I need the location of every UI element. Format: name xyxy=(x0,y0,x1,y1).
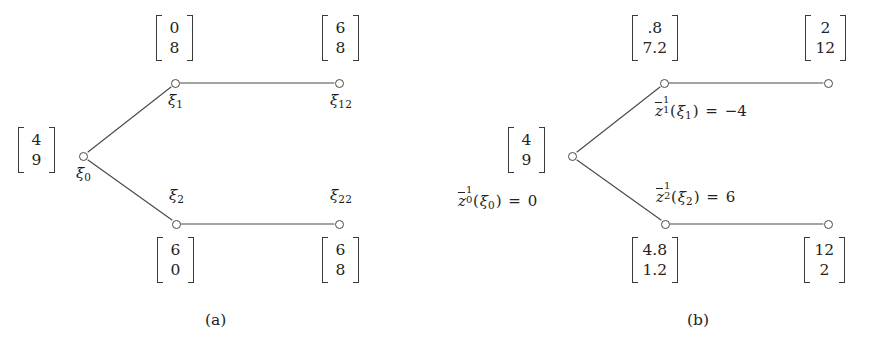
zbar-1-eq: = xyxy=(704,102,719,120)
vector-xi2: 6 0 xyxy=(157,237,194,283)
vector-b-xi2-bottom: 1.2 xyxy=(643,260,668,280)
vector-b-xi0-top: 4 xyxy=(522,131,532,151)
zbar-2-arg-sub: 2 xyxy=(686,195,693,207)
vector-b-xi22-rows: 12 2 xyxy=(813,237,837,283)
vector-b-xi1-bottom: 7.2 xyxy=(643,38,668,58)
vector-xi1-bottom: 8 xyxy=(170,38,180,58)
node-xi1[interactable] xyxy=(171,79,180,88)
edge-b-xi0-xi2 xyxy=(577,160,661,220)
vector-xi0-top: 4 xyxy=(32,131,42,151)
vector-xi0: 4 9 xyxy=(18,127,55,173)
zbar-0-sub: 0 xyxy=(466,195,472,205)
node-label-xi12-sub: 12 xyxy=(338,98,352,110)
node-b-xi0[interactable] xyxy=(568,152,577,161)
bracket-right-icon xyxy=(672,237,678,283)
node-b-xi12[interactable] xyxy=(824,79,833,88)
node-label-xi1: ξ1 xyxy=(168,93,183,110)
bracket-left-icon xyxy=(156,15,162,61)
value-label-zbar-1: z11(ξ1) = −4 xyxy=(655,101,748,121)
vector-b-xi22: 12 2 xyxy=(804,237,845,283)
node-b-xi22[interactable] xyxy=(824,220,833,229)
overbar-icon xyxy=(458,192,465,193)
vector-b-xi2-rows: 4.8 1.2 xyxy=(641,237,670,283)
overbar-icon xyxy=(656,188,663,189)
overbar-icon xyxy=(655,102,662,103)
bracket-right-icon xyxy=(539,127,545,173)
vector-xi12: 6 8 xyxy=(322,15,359,61)
node-label-xi22-sub: 22 xyxy=(338,193,352,205)
bracket-left-icon xyxy=(804,237,810,283)
vector-b-xi0: 4 9 xyxy=(508,127,545,173)
bracket-right-icon xyxy=(353,237,359,283)
caption-panel-b: (b) xyxy=(687,313,709,329)
edge-b-xi0-xi1 xyxy=(577,87,660,152)
node-label-xi0: ξ0 xyxy=(76,166,91,183)
paren-open: ( xyxy=(472,192,480,210)
paren-close: ) xyxy=(692,102,700,120)
vector-b-xi12-bottom: 12 xyxy=(816,38,836,58)
vector-b-xi12-rows: 2 12 xyxy=(814,15,838,61)
vector-b-xi0-bottom: 9 xyxy=(522,150,532,170)
zbar-1-indices: 11 xyxy=(663,101,669,116)
figure-canvas: ξ0 ξ1 ξ12 ξ2 ξ22 4 9 0 8 6 8 xyxy=(0,0,873,351)
zbar-0-z: z xyxy=(458,192,466,210)
vector-xi2-top: 6 xyxy=(171,241,181,261)
zbar-2-z: z xyxy=(656,188,664,206)
value-label-zbar-0: z10(ξ0) = 0 xyxy=(458,191,538,211)
bracket-left-icon xyxy=(322,237,328,283)
vector-b-xi12-top: 2 xyxy=(820,19,830,39)
vector-xi1-rows: 0 8 xyxy=(165,15,185,61)
zbar-symbol: z xyxy=(656,190,664,205)
node-label-xi2-sub: 2 xyxy=(177,193,184,205)
bracket-left-icon xyxy=(18,127,24,173)
vector-xi12-bottom: 8 xyxy=(336,38,346,58)
zbar-0-eq: = xyxy=(507,192,522,210)
node-label-xi1-sub: 1 xyxy=(176,98,183,110)
vector-xi1: 0 8 xyxy=(156,15,193,61)
zbar-2-eq: = xyxy=(705,188,720,206)
node-b-xi1[interactable] xyxy=(660,79,669,88)
paren-close: ) xyxy=(693,188,701,206)
bracket-right-icon xyxy=(187,15,193,61)
bracket-right-icon xyxy=(672,15,678,61)
zbar-0-arg-sub: 0 xyxy=(488,199,495,211)
zbar-1-arg-sub: 1 xyxy=(685,109,692,121)
node-b-xi2[interactable] xyxy=(661,220,670,229)
vector-xi0-bottom: 9 xyxy=(32,150,42,170)
bracket-left-icon xyxy=(632,15,638,61)
vector-xi22-bottom: 8 xyxy=(336,260,346,280)
node-xi22[interactable] xyxy=(335,220,344,229)
zbar-symbol: z xyxy=(458,194,466,209)
node-label-xi12: ξ12 xyxy=(330,93,352,110)
caption-panel-a: (a) xyxy=(205,313,226,329)
bracket-right-icon xyxy=(49,127,55,173)
node-xi2[interactable] xyxy=(172,220,181,229)
vector-xi12-rows: 6 8 xyxy=(331,15,351,61)
zbar-0-arg-base: ξ xyxy=(480,192,488,210)
bracket-left-icon xyxy=(632,237,638,283)
node-xi12[interactable] xyxy=(335,79,344,88)
vector-b-xi0-rows: 4 9 xyxy=(517,127,537,173)
bracket-left-icon xyxy=(157,237,163,283)
bracket-right-icon xyxy=(840,15,846,61)
bracket-left-icon xyxy=(322,15,328,61)
vector-b-xi1-rows: .8 7.2 xyxy=(641,15,670,61)
vector-b-xi12: 2 12 xyxy=(805,15,846,61)
vector-b-xi22-bottom: 2 xyxy=(819,260,829,280)
vector-xi12-top: 6 xyxy=(336,19,346,39)
vector-xi2-rows: 6 0 xyxy=(166,237,186,283)
vector-xi22-top: 6 xyxy=(336,241,346,261)
paren-open: ( xyxy=(670,188,678,206)
zbar-1-arg-base: ξ xyxy=(677,102,685,120)
zbar-2-arg-base: ξ xyxy=(678,188,686,206)
edge-xi0-xi1 xyxy=(88,87,171,152)
bracket-left-icon xyxy=(805,15,811,61)
zbar-2-sub: 2 xyxy=(664,191,670,201)
zbar-1-z: z xyxy=(655,102,663,120)
edge-xi0-xi2 xyxy=(88,160,172,220)
node-label-xi22: ξ22 xyxy=(330,188,352,205)
node-xi0[interactable] xyxy=(79,152,88,161)
vector-b-xi22-top: 12 xyxy=(815,241,835,261)
zbar-1-sub: 1 xyxy=(663,105,669,115)
vector-xi22: 6 8 xyxy=(322,237,359,283)
